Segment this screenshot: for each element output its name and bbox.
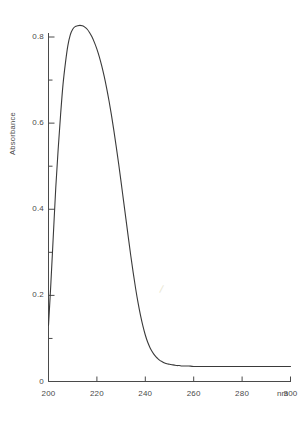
y-axis-ticks — [49, 37, 55, 382]
y-tick-label: 0.4 — [14, 204, 44, 213]
y-tick-label: 0.2 — [14, 290, 44, 299]
y-tick-label: 0.6 — [14, 118, 44, 127]
x-axis-unit-label: nm — [277, 389, 288, 398]
data-series-group — [49, 25, 291, 366]
x-axis-ticks — [49, 377, 291, 382]
plot-area — [0, 0, 299, 421]
x-tick-label: 220 — [80, 389, 114, 398]
y-tick-label: 0.8 — [14, 32, 44, 41]
x-tick-label: 200 — [32, 389, 66, 398]
y-axis-title: Absorbance — [8, 75, 17, 155]
absorbance-spectrum-chart: 00.20.40.60.8 200220240260280300 Absorba… — [0, 0, 299, 421]
y-tick-label: 0 — [14, 377, 44, 386]
x-tick-label: 240 — [128, 389, 162, 398]
axis-lines — [49, 33, 292, 382]
x-tick-label: 260 — [177, 389, 211, 398]
spectrum-curve — [49, 25, 291, 366]
x-tick-label: 280 — [225, 389, 259, 398]
